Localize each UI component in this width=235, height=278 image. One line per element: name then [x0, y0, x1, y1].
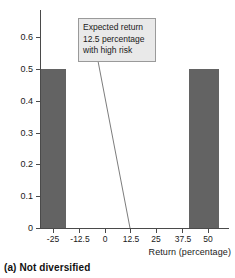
- x-axis-title: Return (percentage): [0, 247, 231, 257]
- x-tick-label-minus25: -25: [47, 235, 59, 244]
- y-tick-0.4: [36, 101, 41, 102]
- annotation-line-2: 12.5 percentage: [83, 34, 151, 46]
- y-tick-label-0.3: 0.3: [20, 129, 33, 138]
- bar-return-50: [189, 69, 219, 228]
- y-tick-0.3: [36, 133, 41, 134]
- x-tick-50: [208, 229, 209, 233]
- x-tick-12.5: [130, 229, 131, 233]
- y-tick-label-0.2: 0.2: [20, 160, 33, 169]
- figure-not-diversified: 0 0.1 0.2 0.3 0.4 0.5 0.6 -25 -12.5 0 12…: [0, 0, 235, 278]
- y-tick-label-0.6: 0.6: [20, 33, 33, 42]
- y-tick-label-0: 0: [28, 224, 33, 233]
- x-tick-minus12.5: [79, 229, 80, 233]
- x-tick-minus25: [53, 229, 54, 233]
- annotation-line-3: with high risk: [83, 45, 151, 57]
- annotation-line-1: Expected return: [83, 22, 151, 34]
- x-tick-label-0: 0: [103, 235, 108, 244]
- x-tick-label-minus12.5: -12.5: [70, 235, 89, 244]
- x-axis-line: [40, 228, 229, 229]
- figure-caption: (a) Not diversified: [4, 262, 90, 273]
- y-tick-label-0.1: 0.1: [20, 192, 33, 201]
- x-tick-label-37.5: 37.5: [175, 235, 192, 244]
- bar-return-minus25: [40, 69, 66, 228]
- x-tick-37.5: [182, 229, 183, 233]
- y-tick-0.6: [36, 37, 41, 38]
- x-tick-label-50: 50: [203, 235, 212, 244]
- y-tick-0.5: [36, 69, 41, 70]
- x-tick-label-25: 25: [151, 235, 160, 244]
- y-tick-label-0.4: 0.4: [20, 97, 33, 106]
- x-tick-0: [105, 229, 106, 233]
- y-tick-0.1: [36, 196, 41, 197]
- y-tick-0: [36, 228, 41, 229]
- x-tick-label-12.5: 12.5: [123, 235, 140, 244]
- y-tick-0.2: [36, 164, 41, 165]
- annotation-expected-return: Expected return 12.5 percentage with hig…: [78, 18, 156, 62]
- y-tick-label-0.5: 0.5: [20, 65, 33, 74]
- x-tick-25: [156, 229, 157, 233]
